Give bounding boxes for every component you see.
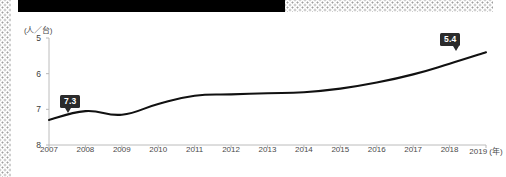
x-tick-label: 2017	[393, 145, 433, 154]
x-tick-label: 2016	[357, 145, 397, 154]
callout-end-pointer	[453, 46, 459, 51]
chart-canvas: (人／台) 5678 20072008200920102011201220132…	[18, 12, 493, 177]
callout-start-value: 7.3	[60, 95, 80, 113]
y-tick-label: 6	[27, 69, 41, 79]
x-tick-label: 2007	[29, 145, 69, 154]
x-tick-label: 2018	[430, 145, 470, 154]
callout-end-value: 5.4	[440, 33, 460, 51]
x-tick-label: 2015	[320, 145, 360, 154]
callout-end-label: 5.4	[440, 33, 460, 46]
chart-axes	[49, 38, 486, 145]
x-tick-label: 2008	[65, 145, 105, 154]
x-tick-label: 2013	[248, 145, 288, 154]
callout-start-pointer	[65, 108, 71, 113]
x-tick-label: 2010	[138, 145, 178, 154]
data-series-line	[49, 52, 486, 120]
x-tick-label: 2011	[175, 145, 215, 154]
x-tick-label: 2009	[102, 145, 142, 154]
callout-start-label: 7.3	[60, 95, 80, 108]
halftone-dot-pattern-left	[0, 0, 11, 177]
halftone-dot-pattern-top	[285, 0, 493, 12]
y-tick-label: 7	[27, 104, 41, 114]
x-tick-label: 2012	[211, 145, 251, 154]
x-tick-label: 2019 (年)	[466, 145, 506, 156]
y-tick-label: 5	[27, 33, 41, 43]
x-tick-label: 2014	[284, 145, 324, 154]
black-header-bar	[18, 0, 285, 12]
